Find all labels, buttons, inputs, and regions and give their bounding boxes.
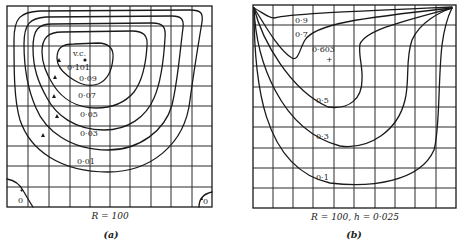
- contour-0-05: [33, 23, 165, 130]
- contour-label-0-03: 0·03: [80, 129, 98, 138]
- contour-label-0-5: 0·5: [316, 96, 329, 105]
- panel-a-caption: R = 100: [90, 211, 128, 221]
- flow-arrow-icon: [41, 133, 45, 137]
- contour-0-01: [14, 10, 202, 172]
- contour-0-3: [254, 8, 452, 147]
- contour-label-0-09: 0·09: [79, 74, 97, 83]
- contour-label-0-01: 0·01: [77, 157, 95, 166]
- flow-arrow-icon: [55, 114, 59, 118]
- vortex-centre-marker: [83, 58, 86, 61]
- flow-arrow-icon: [52, 94, 56, 98]
- contour-0-5: [254, 8, 452, 107]
- contour-label-0-07: 0·07: [78, 91, 96, 100]
- contour-label-0-right: 0: [203, 197, 208, 206]
- figure-canvas: v.c. 0·101 0·09 0·07 0·05 0·03 0·01 0 0 …: [0, 0, 463, 246]
- panel-b-sublabel: (b): [346, 229, 362, 240]
- contour-0-1: [254, 8, 452, 185]
- center-label-0-603: 0·603: [312, 45, 335, 54]
- panel-b: 0·9 0·7 0·603 + 0·5 0·3 0·1 R = 100, h =…: [253, 5, 456, 240]
- contour-label-0-101: 0·101: [67, 63, 90, 72]
- contour-label-0-1: 0·1: [316, 173, 329, 182]
- contour-label-0-7: 0·7: [295, 30, 308, 39]
- contour-label-0-left: 0: [18, 196, 23, 205]
- vortex-centre-label: v.c.: [72, 49, 86, 58]
- contour-label-0-9: 0·9: [295, 16, 308, 25]
- flow-arrow-icon: [53, 75, 57, 79]
- contour-label-0-3: 0·3: [316, 132, 329, 141]
- center-marker: +: [326, 55, 333, 64]
- panel-a-sublabel: (a): [103, 229, 118, 240]
- panel-b-grid: [253, 5, 456, 208]
- contour-label-0-05: 0·05: [80, 110, 98, 119]
- panel-b-caption: R = 100, h = 0·025: [310, 212, 399, 222]
- panel-a: v.c. 0·101 0·09 0·07 0·05 0·03 0·01 0 0 …: [7, 6, 212, 240]
